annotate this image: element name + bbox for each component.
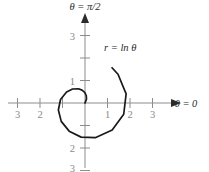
x-ticklabel-1: 1	[105, 109, 110, 120]
y-ticklabel-neg3: 3	[70, 163, 75, 172]
plot-canvas: 3 2 1 2 3 3 1 2 3 θ = 0 θ = π/2 r = ln θ	[0, 0, 209, 172]
x-ticklabel-neg3: 3	[15, 109, 20, 120]
x-axis-label: θ = 0	[175, 98, 198, 109]
x-ticklabel-neg2: 2	[37, 109, 42, 120]
equation-label: r = ln θ	[104, 42, 136, 53]
x-ticklabel-3: 3	[150, 109, 155, 120]
y-ticklabel-1: 1	[70, 76, 75, 87]
y-axis-arrow-icon	[81, 13, 89, 23]
y-ticklabel-neg2: 2	[70, 143, 75, 154]
x-ticklabel-2: 2	[127, 109, 132, 120]
polar-plot-figure: 3 2 1 2 3 3 1 2 3 θ = 0 θ = π/2 r = ln θ	[0, 0, 209, 172]
y-ticklabel-3: 3	[70, 31, 75, 42]
y-axis-label: θ = π/2	[70, 1, 102, 12]
